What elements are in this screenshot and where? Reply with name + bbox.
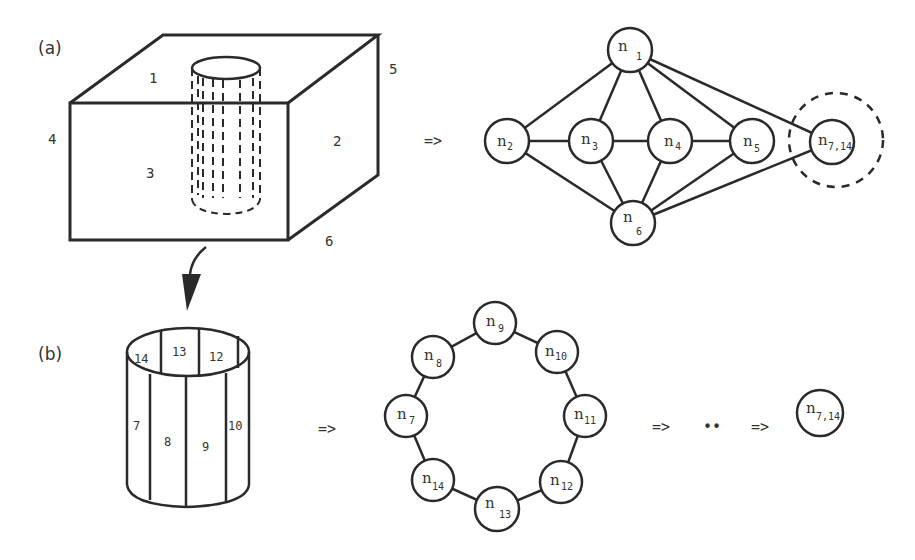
svg-text:n: n	[486, 312, 496, 330]
ring-node-n9: n 9	[474, 302, 516, 344]
ring-node-n13: n 13	[475, 487, 519, 531]
face-label-13: 13	[172, 345, 186, 359]
face-label-8: 8	[164, 435, 171, 449]
svg-text:n: n	[664, 132, 674, 150]
svg-text:n: n	[623, 208, 633, 226]
svg-text:n: n	[485, 494, 495, 512]
cylinder-top	[192, 57, 260, 79]
face-label-7: 7	[133, 419, 140, 433]
svg-text:n: n	[806, 399, 816, 417]
svg-text:10: 10	[555, 351, 567, 362]
svg-text:2: 2	[507, 141, 513, 152]
svg-text:n: n	[422, 469, 432, 487]
node-sub: 1	[636, 51, 642, 62]
face-label-3: 3	[146, 165, 154, 181]
ring-node-n14: n 14	[412, 459, 454, 501]
arrow-b: =>	[318, 420, 336, 438]
svg-text:5: 5	[754, 143, 760, 154]
graph-a-node-n2: n 2	[485, 119, 529, 163]
face-label-10: 10	[228, 419, 242, 433]
svg-text:9: 9	[498, 323, 504, 334]
svg-text:n: n	[743, 132, 753, 150]
down-arrow-icon	[182, 247, 206, 311]
graph-a-node-n5: n 5	[730, 119, 774, 163]
svg-text:7,14: 7,14	[828, 141, 852, 152]
svg-text:n: n	[497, 132, 507, 150]
svg-text:12: 12	[561, 481, 573, 492]
arrow-seq-1: =>	[652, 418, 670, 436]
svg-text:n: n	[545, 342, 555, 360]
svg-text:7: 7	[409, 415, 415, 426]
face-label-9: 9	[202, 440, 209, 454]
ring-node-n12: n 12	[540, 461, 582, 503]
svg-text:n: n	[581, 130, 591, 148]
graph-a-node-n4: n 4	[648, 119, 692, 163]
graph-a-node-n6: n 6	[611, 201, 655, 245]
figure-canvas: (a) 1 2 3 4 5 6 =>	[0, 0, 915, 560]
svg-text:11: 11	[584, 415, 596, 426]
node-base: n	[618, 37, 628, 55]
graph-a-node-n7-14: n 7,14	[810, 120, 854, 164]
final-node-n7-14: n 7,14	[797, 390, 843, 436]
face-label-4: 4	[48, 131, 56, 147]
svg-text:14: 14	[432, 481, 444, 492]
svg-text:6: 6	[636, 226, 642, 237]
svg-text:n: n	[424, 346, 434, 364]
face-label-1: 1	[149, 70, 157, 86]
panel-b-label: (b)	[38, 344, 62, 364]
arrow-seq-2: =>	[751, 418, 769, 436]
graph-a-node-n3: n 3	[569, 119, 613, 163]
box-top-face	[70, 35, 378, 103]
face-label-6: 6	[325, 233, 333, 249]
svg-text:13: 13	[499, 509, 511, 520]
face-label-2: 2	[333, 133, 341, 149]
face-label-14: 14	[134, 352, 148, 366]
ring-node-n7: n 7	[385, 395, 427, 437]
svg-text:8: 8	[436, 358, 442, 369]
box-front-face	[70, 103, 288, 240]
svg-text:3: 3	[592, 141, 598, 152]
embedded-cylinder	[192, 57, 260, 214]
arrow-a: =>	[424, 132, 442, 150]
graph-a-node-n1: n 1	[608, 28, 652, 72]
svg-text:n: n	[818, 131, 828, 149]
face-label-12: 12	[209, 350, 223, 364]
ring-node-n10: n 10	[536, 331, 578, 373]
svg-text:n: n	[574, 405, 584, 423]
panel-a-label: (a)	[38, 38, 62, 58]
svg-text:n: n	[397, 405, 407, 423]
svg-text:n: n	[550, 471, 560, 489]
face-label-5: 5	[389, 61, 397, 77]
svg-text:4: 4	[675, 141, 681, 152]
ellipsis: ••	[703, 418, 721, 436]
ring-node-n8: n 8	[412, 336, 454, 378]
svg-text:7,14: 7,14	[816, 411, 840, 422]
ring-node-n11: n 11	[564, 395, 606, 437]
